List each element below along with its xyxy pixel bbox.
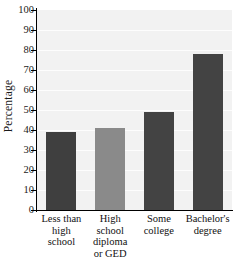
y-axis-tick-mark [31, 70, 36, 71]
bar [95, 128, 125, 210]
y-axis-tick-mark [31, 210, 36, 211]
y-axis-tick-mark [31, 150, 36, 151]
y-axis-tick-mark [31, 170, 36, 171]
x-axis-tick-label: Bachelor'sdegree [176, 213, 240, 236]
bar [144, 112, 174, 210]
x-axis-tick-label-line: diploma [78, 236, 142, 248]
bar [193, 54, 223, 210]
y-axis-tick-mark [31, 110, 36, 111]
y-axis-tick-mark [31, 90, 36, 91]
x-axis-tick-labels: Less thanhighschoolHighschooldiplomaor G… [37, 213, 232, 271]
bar-chart-figure: Percentage 1009080706050403020100 Less t… [0, 0, 248, 273]
y-axis-tick-mark [31, 10, 36, 11]
x-axis-tick-label-line: degree [176, 225, 240, 237]
y-axis-title-text: Percentage [2, 80, 14, 132]
y-axis-tick-mark [31, 130, 36, 131]
x-axis-line [36, 210, 233, 211]
x-axis-tick-label-line: or GED [78, 248, 142, 260]
y-axis-tick-mark [31, 30, 36, 31]
bars-layer [37, 10, 232, 210]
x-axis-tick-label-line: Bachelor's [176, 213, 240, 225]
y-axis-tick-mark [31, 190, 36, 191]
bar [46, 132, 76, 210]
y-axis-tick-mark [31, 50, 36, 51]
